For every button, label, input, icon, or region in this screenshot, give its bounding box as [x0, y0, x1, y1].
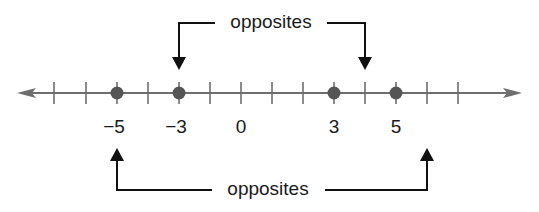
point-3	[328, 87, 341, 100]
down-arrow-icon	[172, 57, 186, 70]
point-5	[390, 87, 403, 100]
tick-label-neg3: −3	[165, 116, 187, 138]
tick-label-0: 0	[236, 116, 247, 138]
up-arrow-icon	[420, 148, 434, 161]
point-neg5	[111, 87, 124, 100]
tick-label-5: 5	[391, 116, 402, 138]
tick-label-neg5: −5	[103, 116, 125, 138]
top-opposites-label: opposites	[224, 11, 317, 33]
point-neg3	[173, 87, 186, 100]
up-arrow-icon	[110, 148, 124, 161]
bottom-opposites-label: opposites	[221, 178, 314, 200]
down-arrow-icon	[358, 57, 372, 70]
tick-label-3: 3	[329, 116, 340, 138]
